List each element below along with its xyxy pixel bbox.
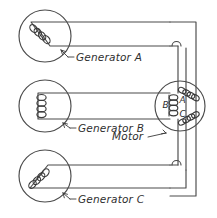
generator-b-leads xyxy=(38,93,170,119)
motor-arrowhead xyxy=(162,130,167,134)
generator-c-top-lead xyxy=(35,165,170,181)
generator-motor-diagram: Generator A Generator B xyxy=(0,0,217,218)
generator-a-top-lead xyxy=(31,22,170,40)
motor-phase-label-a: A xyxy=(179,95,186,105)
generator-a-bottom-lead xyxy=(38,29,170,46)
diagram-canvas: Generator A Generator B xyxy=(0,0,217,218)
motor-phase-label-b: B xyxy=(163,100,169,110)
generator-b-group: Generator B xyxy=(19,80,170,134)
motor-coil-b xyxy=(169,95,178,116)
generator-a-group: Generator A xyxy=(19,10,170,63)
generator-a-label: Generator A xyxy=(76,51,142,63)
bus-wire-c-return xyxy=(170,170,186,188)
wire-hop-top-icon xyxy=(172,42,181,47)
motor-label: Motor xyxy=(112,130,144,142)
generator-c-bottom-lead xyxy=(30,172,170,188)
generator-c-group: Generator C xyxy=(19,150,170,205)
generator-c-label: Generator C xyxy=(78,193,145,205)
motor-phase-label-c: C xyxy=(180,109,187,119)
motor-group: B A C Motor xyxy=(112,81,205,142)
wire-hop-bottom-icon xyxy=(172,161,181,166)
